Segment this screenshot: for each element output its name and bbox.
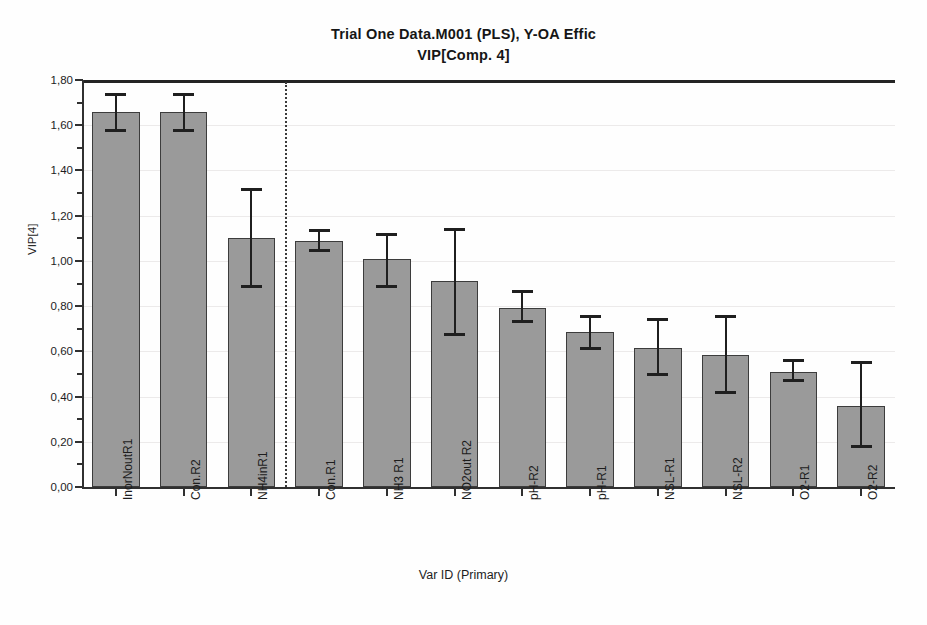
x-axis-tick-label: NO2out R2 — [460, 440, 474, 500]
error-bar-stem — [183, 94, 185, 130]
x-axis-tick-label: InorNoutR1 — [121, 439, 135, 500]
error-bar-cap-upper — [309, 229, 330, 232]
y-axis-minor-tick — [77, 237, 83, 239]
bar — [160, 112, 207, 487]
error-bar-cap-upper — [647, 318, 668, 321]
y-axis-minor-tick — [77, 283, 83, 285]
plot-area: 0,000,200,400,600,801,001,201,401,601,80… — [82, 80, 895, 489]
bar — [92, 112, 139, 487]
y-axis-line — [82, 80, 84, 489]
error-bar-cap-upper — [105, 93, 126, 96]
x-axis-tick — [521, 489, 523, 496]
error-bar-cap-upper — [715, 315, 736, 318]
x-axis-tick-label: O2-R2 — [866, 465, 880, 500]
error-bar-stem — [250, 189, 252, 286]
error-bar-cap-lower — [105, 129, 126, 132]
y-axis-minor-tick — [77, 147, 83, 149]
bar — [499, 308, 546, 487]
x-axis-tick-label: NSL-R1 — [663, 457, 677, 500]
x-axis-tick — [725, 489, 727, 496]
error-bar-stem — [386, 234, 388, 286]
y-axis-tick-label: 1,00 — [51, 255, 73, 267]
error-bar-cap-upper — [512, 290, 533, 293]
chart-title: Trial One Data.M001 (PLS), Y-OA Effic — [0, 24, 927, 45]
error-bar-cap-upper — [851, 361, 872, 364]
error-bar-stem — [725, 316, 727, 392]
x-axis-tick-label: NH3 R1 — [392, 457, 406, 500]
y-axis-tick-label: 1,80 — [51, 74, 73, 86]
x-axis-tick — [250, 489, 252, 496]
error-bar-cap-lower — [580, 347, 601, 350]
error-bar-cap-lower — [241, 285, 262, 288]
x-axis-tick — [657, 489, 659, 496]
chart-title-block: Trial One Data.M001 (PLS), Y-OA Effic VI… — [0, 24, 927, 66]
error-bar-stem — [589, 316, 591, 348]
x-axis-tick-label: O2-R1 — [798, 465, 812, 500]
x-axis-tick — [792, 489, 794, 496]
x-axis-tick — [318, 489, 320, 496]
x-axis-tick — [860, 489, 862, 496]
error-bar-cap-upper — [241, 188, 262, 191]
error-bar-stem — [521, 291, 523, 320]
y-axis-tick — [75, 260, 83, 262]
y-axis-tick — [75, 486, 83, 488]
y-axis-tick-label: 0,60 — [51, 345, 73, 357]
bar — [363, 259, 410, 487]
significance-separator — [285, 82, 287, 487]
y-axis-tick-label: 1,40 — [51, 164, 73, 176]
y-axis-tick-label: 0,20 — [51, 436, 73, 448]
error-bar-stem — [860, 362, 862, 447]
error-bar-cap-upper — [376, 233, 397, 236]
y-axis-tick — [75, 215, 83, 217]
x-axis-tick-label: Con.R2 — [189, 459, 203, 500]
x-axis-tick — [386, 489, 388, 496]
error-bar-cap-lower — [647, 373, 668, 376]
error-bar-cap-lower — [783, 379, 804, 382]
x-axis-tick — [454, 489, 456, 496]
error-bar-cap-lower — [851, 445, 872, 448]
x-axis-tick-label: NSL-R2 — [731, 457, 745, 500]
error-bar-stem — [792, 360, 794, 379]
x-axis-line — [82, 487, 895, 489]
bar — [295, 241, 342, 487]
y-axis-tick — [75, 124, 83, 126]
error-bar-cap-lower — [444, 333, 465, 336]
error-bar-cap-lower — [512, 320, 533, 323]
error-bar-cap-upper — [444, 228, 465, 231]
error-bar-stem — [115, 94, 117, 130]
y-axis-minor-tick — [77, 328, 83, 330]
error-bar-cap-lower — [173, 129, 194, 132]
error-bar-cap-lower — [376, 285, 397, 288]
y-axis-tick-label: 1,60 — [51, 119, 73, 131]
y-axis-tick — [75, 350, 83, 352]
plot-top-border — [82, 80, 895, 83]
y-axis-tick-label: 0,40 — [51, 391, 73, 403]
x-axis-tick-label: NH4inR1 — [256, 451, 270, 500]
bar — [566, 332, 613, 487]
chart-subtitle: VIP[Comp. 4] — [0, 45, 927, 66]
x-axis-title: Var ID (Primary) — [0, 568, 927, 582]
y-axis-tick-label: 0,80 — [51, 300, 73, 312]
error-bar-cap-lower — [309, 249, 330, 252]
y-axis-tick — [75, 79, 83, 81]
x-axis-tick — [589, 489, 591, 496]
error-bar-cap-upper — [783, 359, 804, 362]
y-axis-tick — [75, 396, 83, 398]
y-axis-tick — [75, 169, 83, 171]
x-axis-tick — [115, 489, 117, 496]
y-axis-minor-tick — [77, 418, 83, 420]
x-axis-tick-label: Con.R1 — [324, 459, 338, 500]
x-axis-tick-label: pH-R1 — [595, 465, 609, 500]
error-bar-stem — [657, 319, 659, 374]
y-axis-title: VIP[4] — [26, 224, 38, 255]
y-axis-minor-tick — [77, 463, 83, 465]
y-axis-tick-label: 1,20 — [51, 210, 73, 222]
y-axis-tick — [75, 441, 83, 443]
y-axis-minor-tick — [77, 102, 83, 104]
y-axis-tick — [75, 305, 83, 307]
y-axis-minor-tick — [77, 373, 83, 375]
y-axis-minor-tick — [77, 192, 83, 194]
y-axis-tick-label: 0,00 — [51, 481, 73, 493]
error-bar-cap-lower — [715, 391, 736, 394]
error-bar-cap-upper — [580, 315, 601, 318]
